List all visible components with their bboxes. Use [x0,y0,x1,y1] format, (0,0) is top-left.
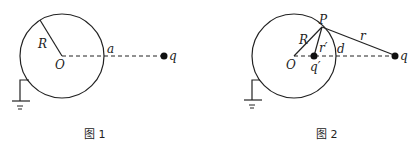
caption-figure-1: 图 1 [84,128,106,141]
diagram-canvas: R O a q 图 1 P R r′ O q′ d r q 图 2 [0,0,417,142]
label-r: r [360,29,367,43]
label-r-prime: r′ [319,41,328,55]
point-charge-q [392,53,399,60]
ground-wire [20,80,29,101]
label-d: d [337,42,345,56]
label-q: q [400,49,408,63]
ground-wire [252,80,260,100]
label-R: R [298,33,308,47]
label-O: O [286,58,296,72]
point-charge-q [161,53,168,60]
image-charge-q-prime [311,53,318,60]
label-a: a [107,42,114,56]
figure-2: P R r′ O q′ d r q 图 2 [244,13,408,141]
label-q: q [169,49,177,63]
label-R: R [37,37,47,51]
label-O: O [55,58,65,72]
figure-1: R O a q 图 1 [12,14,177,141]
label-q-prime: q′ [310,60,321,74]
caption-figure-2: 图 2 [316,128,338,141]
label-P: P [318,13,328,27]
